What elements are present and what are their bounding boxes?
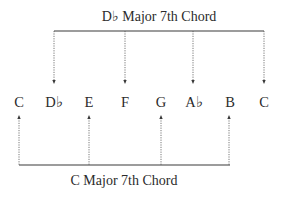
arrow-down-icon [191, 80, 194, 84]
arrow-down-icon [123, 80, 126, 84]
note-g: G [156, 94, 166, 111]
top-chord-title: D♭ Major 7th Chord [102, 8, 217, 25]
note-c-high: C [259, 94, 269, 111]
bottom-chord-bracket [17, 115, 230, 165]
connector-lines [0, 0, 282, 201]
note-a-flat: A♭ [185, 94, 202, 111]
note-c-low: C [14, 94, 24, 111]
arrow-down-icon [262, 80, 265, 84]
note-d-flat: D♭ [45, 94, 62, 111]
bottom-chord-title: C Major 7th Chord [71, 173, 178, 189]
note-f: F [121, 94, 129, 111]
chord-diagram: D♭ Major 7th Chord C D♭ E F G A♭ B C C M… [0, 0, 282, 201]
arrow-up-icon [227, 115, 230, 119]
arrow-down-icon [52, 80, 55, 84]
note-b: B [225, 94, 235, 111]
arrow-up-icon [17, 115, 20, 119]
arrow-up-icon [159, 115, 162, 119]
note-e: E [85, 94, 94, 111]
top-chord-bracket [52, 31, 265, 84]
arrow-up-icon [87, 115, 90, 119]
